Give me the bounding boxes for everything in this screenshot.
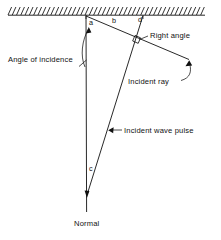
boundary-hatch-line [141, 7, 145, 15]
right-angle-label: Right angle [150, 31, 190, 40]
boundary-hatch-line [81, 7, 85, 15]
boundary-hatch-line [107, 7, 111, 15]
boundary-hatch-line [188, 7, 192, 15]
boundary-hatch-lines [8, 7, 204, 15]
hatched-boundary-surface [8, 7, 205, 15]
ray-diagram: a b d c Angle of incidence Right angle I… [0, 0, 221, 240]
boundary-hatch-line [85, 7, 89, 15]
boundary-hatch-line [179, 7, 183, 15]
boundary-hatch-line [149, 7, 153, 15]
angle-of-incidence-label: Angle of incidence [8, 55, 73, 64]
boundary-hatch-line [171, 7, 175, 15]
boundary-hatch-line [51, 7, 55, 15]
boundary-hatch-line [192, 7, 196, 15]
boundary-hatch-line [59, 7, 63, 15]
boundary-hatch-line [64, 7, 68, 15]
boundary-hatch-line [162, 7, 166, 15]
boundary-hatch-line [98, 7, 102, 15]
boundary-hatch-line [68, 7, 72, 15]
incident-ray-label: Incident ray [128, 77, 169, 86]
boundary-hatch-line [158, 7, 162, 15]
boundary-hatch-line [94, 7, 98, 15]
boundary-hatch-line [184, 7, 188, 15]
boundary-hatch-line [17, 7, 21, 15]
boundary-hatch-line [72, 7, 76, 15]
boundary-hatch-line [115, 7, 119, 15]
angle-of-incidence-arrowhead [86, 27, 91, 34]
incident-wave-pulse-label: Incident wave pulse [124, 126, 194, 135]
boundary-hatch-line [12, 7, 16, 15]
boundary-hatch-line [38, 7, 42, 15]
figure-canvas: a b d c Angle of incidence Right angle I… [0, 0, 221, 240]
point-label-a: a [89, 18, 93, 27]
boundary-hatch-line [55, 7, 59, 15]
boundary-hatch-line [8, 7, 12, 15]
boundary-hatch-line [128, 7, 132, 15]
boundary-hatch-line [34, 7, 38, 15]
boundary-hatch-line [47, 7, 51, 15]
normal-line [86, 16, 87, 213]
normal-label: Normal [74, 219, 100, 228]
boundary-hatch-line [196, 7, 200, 15]
boundary-hatch-line [111, 7, 115, 15]
boundary-hatch-line [119, 7, 123, 15]
boundary-hatch-line [29, 7, 33, 15]
boundary-hatch-line [145, 7, 149, 15]
boundary-hatch-line [166, 7, 170, 15]
boundary-hatch-line [89, 7, 93, 15]
boundary-hatch-line [201, 7, 205, 15]
boundary-hatch-line [21, 7, 25, 15]
boundary-hatch-line [124, 7, 128, 15]
boundary-hatch-line [136, 7, 140, 15]
incident-wave-pulse-arrowhead [108, 127, 113, 133]
boundary-hatch-line [77, 7, 81, 15]
boundary-hatch-line [132, 7, 136, 15]
incident-ray-arrowhead [186, 60, 193, 66]
boundary-hatch-line [42, 7, 46, 15]
point-label-b: b [112, 16, 116, 25]
point-label-c: c [89, 164, 93, 173]
boundary-hatch-line [25, 7, 29, 15]
point-label-d: d [138, 15, 142, 24]
boundary-hatch-line [102, 7, 106, 15]
boundary-hatch-line [175, 7, 179, 15]
boundary-hatch-line [154, 7, 158, 15]
incident-ray-line [87, 16, 143, 196]
